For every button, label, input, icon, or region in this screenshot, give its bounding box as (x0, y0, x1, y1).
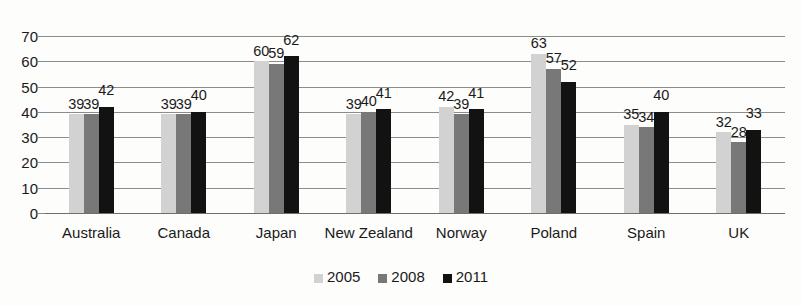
y-axis-tick-label: 50 (4, 80, 38, 95)
gridline (45, 61, 785, 62)
chart-legend: 200520082011 (0, 268, 802, 286)
legend-swatch-icon (314, 274, 323, 283)
bar[interactable] (346, 114, 361, 213)
y-axis-tick-mark (38, 162, 45, 163)
y-axis-tick-mark (38, 61, 45, 62)
bar[interactable] (746, 130, 761, 213)
x-axis-category-label: New Zealand (325, 224, 413, 242)
x-axis-category-label: Norway (436, 224, 487, 242)
legend-swatch-icon (443, 274, 452, 283)
y-axis-tick-label: 70 (4, 29, 38, 44)
bar-value-label: 41 (465, 86, 487, 101)
bar[interactable] (269, 64, 284, 213)
bar-value-label: 41 (373, 86, 395, 101)
x-axis-category-label: UK (728, 224, 749, 242)
bar[interactable] (639, 127, 654, 213)
bar[interactable] (731, 142, 746, 213)
legend-label: 2008 (391, 268, 424, 286)
x-axis-category-label: Japan (256, 224, 297, 242)
bar[interactable] (531, 54, 546, 213)
gridline (45, 112, 785, 113)
bar-value-label: 40 (650, 88, 672, 103)
bar[interactable] (284, 56, 299, 213)
bar-value-label: 33 (743, 106, 765, 121)
y-axis-tick-label: 40 (4, 105, 38, 120)
bar[interactable] (561, 82, 576, 213)
x-axis-labels: AustraliaCanadaJapanNew ZealandNorwayPol… (45, 224, 785, 246)
legend-item[interactable]: 2011 (443, 268, 488, 286)
bar[interactable] (191, 112, 206, 213)
bar[interactable] (716, 132, 731, 213)
y-axis-tick-label: 30 (4, 130, 38, 145)
y-axis-tick-label: 60 (4, 54, 38, 69)
bar-group: 605962 (254, 36, 299, 213)
y-axis-tick-mark (38, 188, 45, 189)
x-axis-line (45, 213, 785, 214)
plot-area: 3939423939406059623940414239416357523534… (45, 36, 785, 213)
bar[interactable] (376, 109, 391, 213)
gridline (45, 188, 785, 189)
bar-value-label: 52 (558, 58, 580, 73)
gridline (45, 87, 785, 88)
bar-value-label: 40 (188, 88, 210, 103)
gridline (45, 36, 785, 37)
bar[interactable] (254, 61, 269, 213)
y-axis-tick-mark (38, 137, 45, 138)
bar-group: 393942 (69, 36, 114, 213)
x-axis-category-label: Poland (530, 224, 577, 242)
y-axis-tick-label: 10 (4, 181, 38, 196)
x-axis-category-label: Spain (627, 224, 665, 242)
legend-swatch-icon (378, 274, 387, 283)
bar-group: 353440 (624, 36, 669, 213)
bar[interactable] (439, 107, 454, 213)
legend-label: 2011 (456, 268, 488, 286)
bar-group: 394041 (346, 36, 391, 213)
bar-value-label: 63 (528, 36, 550, 51)
legend-label: 2005 (327, 268, 360, 286)
bar-value-label: 62 (280, 33, 302, 48)
bar[interactable] (624, 125, 639, 214)
y-axis: 706050403020100 (0, 36, 38, 213)
bar[interactable] (546, 69, 561, 213)
bar-group: 423941 (439, 36, 484, 213)
y-axis-tick-mark (38, 213, 45, 214)
bar[interactable] (84, 114, 99, 213)
bar-group: 322833 (716, 36, 761, 213)
bar-group: 635752 (531, 36, 576, 213)
bar[interactable] (454, 114, 469, 213)
bar[interactable] (469, 109, 484, 213)
gridline (45, 162, 785, 163)
y-axis-tick-mark (38, 36, 45, 37)
y-axis-tick-label: 0 (4, 206, 38, 221)
y-axis-tick-mark (38, 112, 45, 113)
bar[interactable] (654, 112, 669, 213)
bar-group: 393940 (161, 36, 206, 213)
x-axis-category-label: Australia (62, 224, 120, 242)
bar[interactable] (161, 114, 176, 213)
bar-value-label: 42 (95, 83, 117, 98)
bar[interactable] (176, 114, 191, 213)
grouped-bar-chart: 706050403020100 393942393940605962394041… (0, 0, 802, 306)
legend-item[interactable]: 2008 (378, 268, 424, 286)
bar[interactable] (69, 114, 84, 213)
x-axis-category-label: Canada (157, 224, 210, 242)
bar[interactable] (99, 107, 114, 213)
y-axis-tick-mark (38, 87, 45, 88)
y-axis-tick-label: 20 (4, 155, 38, 170)
gridline (45, 137, 785, 138)
bar[interactable] (361, 112, 376, 213)
legend-item[interactable]: 2005 (314, 268, 360, 286)
